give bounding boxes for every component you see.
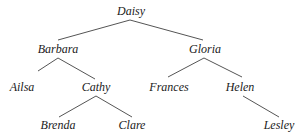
edge-helen-lesley [243, 96, 279, 117]
edge-gloria-frances [168, 58, 204, 77]
node-ailsa: Ailsa [10, 81, 35, 93]
node-daisy: Daisy [117, 5, 145, 17]
node-lesley: Lesley [264, 119, 295, 131]
node-gloria: Gloria [189, 43, 221, 55]
node-frances: Frances [149, 81, 188, 93]
edge-cathy-clare [96, 96, 132, 117]
edge-barbara-cathy [58, 58, 95, 79]
node-helen: Helen [226, 81, 255, 93]
node-barbara: Barbara [38, 43, 79, 55]
family-tree-diagram: Daisy Barbara Gloria Ailsa Cathy Frances… [0, 0, 299, 139]
node-cathy: Cathy [82, 81, 111, 93]
edge-daisy-barbara [58, 20, 130, 40]
edge-barbara-ailsa [38, 58, 58, 71]
edge-daisy-gloria [130, 20, 203, 40]
node-brenda: Brenda [41, 119, 76, 131]
edge-gloria-helen [204, 58, 242, 77]
edge-cathy-brenda [59, 96, 96, 117]
node-clare: Clare [119, 119, 146, 131]
